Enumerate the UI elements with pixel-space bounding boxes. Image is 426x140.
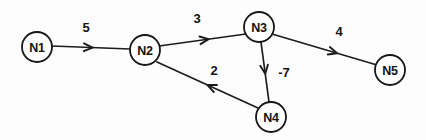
graph-canvas: N1N2N3N4N5 534-72 [0,0,426,140]
edge-weights-layer: 534-72 [82,11,343,80]
node-n1[interactable]: N1 [22,32,52,62]
node-n3[interactable]: N3 [244,12,274,42]
edge-weight-n2-n3: 3 [193,11,200,26]
node-label-n5: N5 [382,64,398,78]
node-n2[interactable]: N2 [130,35,160,65]
node-label-n1: N1 [29,41,45,55]
node-label-n3: N3 [251,21,267,35]
node-label-n4: N4 [263,111,279,125]
graph-figure: N1N2N3N4N5 534-72 [0,0,426,140]
node-n4[interactable]: N4 [256,102,286,132]
edge-weight-n3-n4: -7 [278,65,290,80]
node-n5[interactable]: N5 [375,55,405,85]
edge-n3-n5 [272,34,377,65]
edge-n2-n3 [159,34,246,46]
edge-weight-n1-n2: 5 [82,20,89,35]
edge-weight-n3-n5: 4 [335,24,343,39]
node-label-n2: N2 [137,44,153,58]
edge-weight-n4-n2: 2 [210,63,217,78]
